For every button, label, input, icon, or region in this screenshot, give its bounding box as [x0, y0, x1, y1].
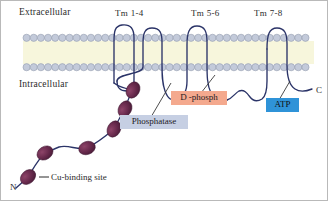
- lipid-head-bottom: [23, 64, 30, 71]
- lipid-head-top: [80, 34, 87, 41]
- tm-label-7-8: Tm 7-8: [254, 8, 283, 18]
- lipid-head-bottom: [230, 64, 237, 71]
- leader-phosphatase: [151, 83, 171, 117]
- lipid-head-top: [295, 34, 302, 41]
- lipid-head-bottom: [102, 64, 109, 71]
- lipid-head-top: [209, 34, 216, 41]
- tm-label-1-4: Tm 1-4: [115, 8, 144, 18]
- lipid-head-bottom: [59, 64, 66, 71]
- lipid-head-top: [52, 34, 59, 41]
- cu-binding-site-label: Cu-binding site: [51, 172, 107, 182]
- lipid-head-bottom: [288, 64, 295, 71]
- lipid-head-top: [252, 34, 259, 41]
- lipid-head-bottom: [295, 64, 302, 71]
- n-terminus-label: N: [10, 182, 17, 192]
- lipid-head-top: [273, 34, 280, 41]
- lipid-head-bottom: [37, 64, 44, 71]
- lipid-head-top: [230, 34, 237, 41]
- lipid-head-top: [223, 34, 230, 41]
- lipid-head-top: [195, 34, 202, 41]
- callout-atp[interactable]: ATP: [266, 98, 299, 112]
- lipid-head-top: [245, 34, 252, 41]
- lipid-head-bottom: [259, 64, 266, 71]
- lipid-head-top: [102, 34, 109, 41]
- lipid-head-top: [30, 34, 37, 41]
- lipid-head-top: [59, 34, 66, 41]
- extracellular-label: Extracellular: [19, 7, 71, 17]
- lipid-head-bottom: [273, 64, 280, 71]
- lipid-head-top: [37, 34, 44, 41]
- lipid-head-top: [87, 34, 94, 41]
- lipid-head-bottom: [187, 64, 194, 71]
- lipid-head-top: [216, 34, 223, 41]
- lipid-head-top: [180, 34, 187, 41]
- lipid-head-top: [187, 34, 194, 41]
- lipid-head-top: [145, 34, 152, 41]
- lipid-head-top: [95, 34, 102, 41]
- cu-binding-site-4: [77, 139, 97, 157]
- lipid-head-top: [23, 34, 30, 41]
- lipid-head-top: [116, 34, 123, 41]
- lipid-head-top: [123, 34, 130, 41]
- lipid-head-bottom: [44, 64, 51, 71]
- lipid-head-bottom: [87, 64, 94, 71]
- lipid-head-top: [302, 34, 309, 41]
- lipid-head-bottom: [166, 64, 173, 71]
- lipid-head-top: [73, 34, 80, 41]
- tm-label-5-6: Tm 5-6: [191, 8, 220, 18]
- lipid-head-top: [44, 34, 51, 41]
- lipid-head-bottom: [73, 64, 80, 71]
- lipid-head-bottom: [52, 64, 59, 71]
- lipid-head-bottom: [145, 64, 152, 71]
- lipid-head-bottom: [173, 64, 180, 71]
- lipid-head-bottom: [195, 64, 202, 71]
- lipid-head-top: [259, 34, 266, 41]
- callout-d-phosph[interactable]: D -phosph: [171, 91, 227, 105]
- lipid-head-top: [152, 34, 159, 41]
- lipid-head-bottom: [116, 64, 123, 71]
- c-terminus-label: C: [316, 85, 322, 95]
- lipid-head-top: [288, 34, 295, 41]
- lipid-head-bottom: [216, 64, 223, 71]
- lipid-head-bottom: [95, 64, 102, 71]
- lipid-head-top: [238, 34, 245, 41]
- lipid-head-bottom: [302, 64, 309, 71]
- lipid-head-top: [166, 34, 173, 41]
- lipid-head-bottom: [123, 64, 130, 71]
- intracellular-label: Intracellular: [19, 79, 68, 89]
- lipid-head-bottom: [109, 64, 116, 71]
- lipid-head-bottom: [202, 64, 209, 71]
- lipid-head-bottom: [30, 64, 37, 71]
- lipid-head-top: [202, 34, 209, 41]
- figure-canvas: Extracellular Intracellular Tm 1-4 Tm 5-…: [0, 0, 328, 201]
- lipid-head-bottom: [245, 64, 252, 71]
- lipid-head-bottom: [238, 64, 245, 71]
- lipid-head-bottom: [209, 64, 216, 71]
- lipid-head-top: [173, 34, 180, 41]
- cu-binding-site-1: [123, 79, 142, 100]
- cu-binding-site-5: [34, 143, 55, 163]
- lipid-head-top: [109, 34, 116, 41]
- lipid-head-bottom: [152, 64, 159, 71]
- lipid-head-bottom: [252, 64, 259, 71]
- lipid-head-bottom: [223, 64, 230, 71]
- lipid-head-bottom: [80, 64, 87, 71]
- lipid-head-bottom: [66, 64, 73, 71]
- callout-phosphatase[interactable]: Phosphatase: [120, 115, 188, 129]
- lipid-bilayer: [23, 34, 314, 71]
- lipid-head-top: [66, 34, 73, 41]
